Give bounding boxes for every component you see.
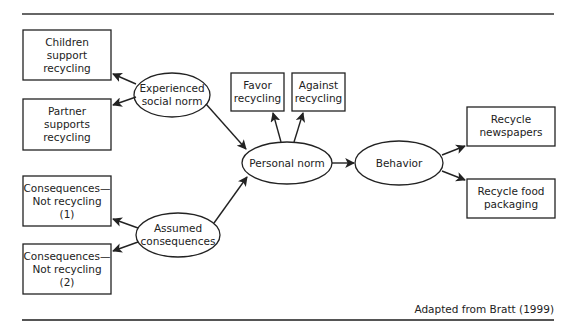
node-label: Not recycling xyxy=(32,195,101,207)
node-newspapers: Recycle newspapers xyxy=(467,107,555,146)
edge-experienced-partner xyxy=(113,97,136,105)
node-label: Against xyxy=(299,79,338,91)
node-experienced: Experienced social norm xyxy=(134,73,210,117)
node-label: social norm xyxy=(142,95,203,107)
node-label: support xyxy=(47,49,87,61)
node-against: Against recycling xyxy=(292,73,345,111)
node-label: recycling xyxy=(43,62,90,74)
node-label: newspapers xyxy=(479,126,542,138)
node-label: recycling xyxy=(43,131,90,143)
node-label: Recycle food xyxy=(478,185,545,197)
node-label: Behavior xyxy=(376,157,423,169)
node-label: Not recycling xyxy=(32,263,101,275)
node-personal: Personal norm xyxy=(242,142,332,184)
node-food: Recycle food packaging xyxy=(467,179,555,218)
node-label: Favor xyxy=(243,79,272,91)
edge-behavior-newspapers xyxy=(442,146,465,155)
node-label: Recycle xyxy=(491,113,531,125)
node-partner: Partner supports recycling xyxy=(23,99,111,150)
node-label: Consequences— xyxy=(24,250,111,262)
node-assumed: Assumed consequences xyxy=(136,213,220,257)
edge-assumed-personal xyxy=(214,177,247,223)
node-label: packaging xyxy=(484,198,538,210)
node-label: Experienced xyxy=(139,82,204,94)
node-label: Personal norm xyxy=(249,157,324,169)
node-label: supports xyxy=(44,118,90,130)
edge-behavior-food xyxy=(442,171,465,180)
node-label: Children xyxy=(45,36,89,48)
node-label: recycling xyxy=(234,92,281,104)
edge-experienced-children xyxy=(113,74,136,84)
edge-personal-against xyxy=(294,113,303,142)
node-favor: Favor recycling xyxy=(231,73,284,111)
node-children: Children support recycling xyxy=(23,30,111,80)
edge-personal-favor xyxy=(273,113,281,142)
node-label: (1) xyxy=(60,208,75,220)
path-diagram: Children support recycling Partner suppo… xyxy=(0,0,575,326)
node-label: Assumed xyxy=(154,222,202,234)
node-behavior: Behavior xyxy=(355,141,443,185)
node-conseq2: Consequences— Not recycling (2) xyxy=(23,244,111,294)
edge-assumed-conseq1 xyxy=(113,219,138,228)
node-label: recycling xyxy=(295,92,342,104)
edge-assumed-conseq2 xyxy=(113,242,138,251)
node-label: (2) xyxy=(60,276,75,288)
node-label: consequences xyxy=(141,235,216,247)
node-label: Consequences— xyxy=(24,182,111,194)
node-conseq1: Consequences— Not recycling (1) xyxy=(23,176,111,226)
node-label: Partner xyxy=(48,105,87,117)
source-caption: Adapted from Bratt (1999) xyxy=(414,303,554,315)
